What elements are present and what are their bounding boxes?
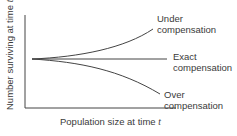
exact-compensation-label: Exact compensation [173, 51, 232, 73]
x-axis-label: Population size at time t [60, 116, 161, 127]
over-compensation-curve [32, 59, 160, 94]
under-compensation-curve [32, 29, 153, 59]
y-axis-label: Number surviving at time t+1 [4, 0, 17, 110]
under-compensation-label: Under compensation [157, 13, 216, 35]
over-compensation-label: Over compensation [164, 89, 223, 111]
